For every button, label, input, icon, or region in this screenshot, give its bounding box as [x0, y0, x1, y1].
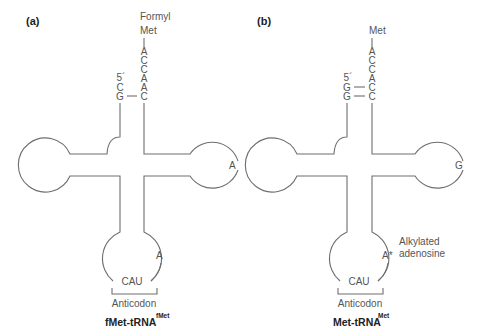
trna-name-sup-b: Met: [378, 312, 390, 319]
loop-seg: [151, 263, 161, 281]
acceptor-3prime-a: A C C A A C: [140, 46, 147, 102]
acceptor-3prime-b: A C C A C C: [368, 46, 375, 102]
base: G: [343, 91, 351, 102]
acceptor-5prime-b: 5´ G G: [343, 72, 352, 102]
trna-name-sup-a: fMet: [156, 312, 170, 319]
adenosine-label: adenosine: [399, 248, 446, 259]
trna-comparison-diagram: (a) Formyl Met A C C A A C 5´ C G A A CA…: [0, 0, 479, 329]
panel-a: (a) Formyl Met A C C A A C 5´ C G A A CA…: [18, 11, 238, 328]
anticodon-loop-base-a: A: [156, 250, 163, 261]
anticodon-a: CAU: [121, 276, 142, 287]
panel-b: (b) Met A C C A C C 5´ G G G A* Alkylate…: [245, 15, 463, 328]
met-label-a: Met: [140, 25, 157, 36]
formyl-label: Formyl: [140, 11, 171, 22]
anticodon-loop-base-b: A*: [382, 250, 393, 261]
anticodon-label-a: Anticodon: [112, 298, 156, 309]
trna-backbone-a: [18, 103, 238, 281]
right-loop-base-a: A: [229, 160, 236, 171]
base: C: [368, 91, 375, 102]
trna-name-b: Met-tRNA: [333, 316, 381, 328]
panel-label-b: (b): [257, 15, 271, 27]
trna-name-a: fMet-tRNA: [105, 316, 157, 328]
alkylated-label: Alkylated: [399, 236, 440, 247]
anticodon-bracket-b: [338, 288, 383, 294]
met-label-b: Met: [369, 25, 386, 36]
loop-seg: [378, 263, 388, 281]
base: G: [116, 91, 124, 102]
anticodon-b: CAU: [348, 276, 369, 287]
anticodon-bracket-a: [112, 288, 157, 294]
right-loop-base-b: G: [455, 160, 463, 171]
base: C: [140, 91, 147, 102]
panel-label-a: (a): [26, 15, 40, 27]
anticodon-label-b: Anticodon: [338, 298, 382, 309]
acceptor-5prime-a: 5´ C G: [116, 72, 125, 102]
